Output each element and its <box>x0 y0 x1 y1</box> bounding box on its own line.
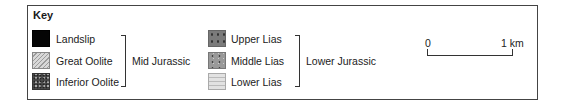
scale-start-label: 0 <box>425 37 431 49</box>
inferior-oolite-swatch <box>32 73 50 90</box>
middle-lias-swatch <box>208 52 226 69</box>
scale-end-label: 1 km <box>501 37 524 49</box>
middle-lias-label: Middle Lias <box>231 55 284 67</box>
mid-jurassic-bracket <box>121 35 126 87</box>
lower-lias-swatch <box>208 73 226 90</box>
upper-lias-swatch <box>208 30 226 47</box>
key-title: Key <box>33 9 53 21</box>
lower-lias-label: Lower Lias <box>231 76 282 88</box>
upper-lias-label: Upper Lias <box>231 33 282 45</box>
great-oolite-label: Great Oolite <box>56 55 113 67</box>
inferior-oolite-label: Inferior Oolite <box>56 76 119 88</box>
lower-jurassic-label: Lower Jurassic <box>306 55 376 67</box>
mid-jurassic-label: Mid Jurassic <box>132 55 190 67</box>
landslip-swatch <box>32 30 50 47</box>
scale-bar <box>427 49 513 56</box>
landslip-label: Landslip <box>56 33 95 45</box>
lower-jurassic-bracket <box>295 35 300 87</box>
great-oolite-swatch <box>32 52 50 69</box>
